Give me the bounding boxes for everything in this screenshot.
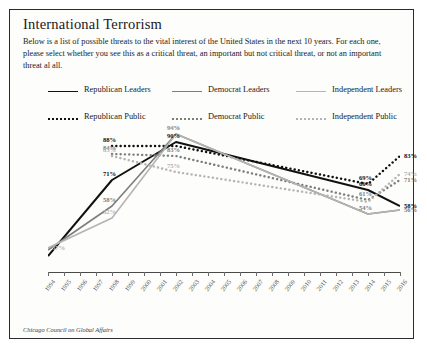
legend-label: Republican Public	[84, 112, 146, 121]
x-tick-label: 2011	[315, 278, 328, 292]
x-tick-label: 2001	[155, 278, 168, 292]
axis-tick	[336, 272, 337, 276]
axis-tick	[352, 272, 353, 276]
legend-item-democrat-leaders: Democrat Leaders	[172, 86, 292, 99]
x-tick-label: 2008	[267, 278, 280, 292]
legend-swatch	[172, 91, 202, 92]
x-tick-label: 2016	[395, 278, 408, 292]
description-text: Below is a list of possible threats to t…	[23, 36, 401, 72]
x-tick-label: 1998	[107, 278, 120, 292]
legend-swatch	[48, 118, 78, 120]
data-label: 74%	[404, 170, 417, 177]
axis-tick	[80, 272, 81, 276]
legend-item-republican-leaders: Republican Leaders	[48, 86, 168, 99]
series-lines	[48, 122, 400, 272]
chart-legend: Republican LeadersRepublican PublicDemoc…	[48, 86, 404, 114]
data-label: 75%	[167, 162, 180, 169]
data-label: 54%	[359, 204, 372, 211]
x-tick-label: 1995	[59, 278, 72, 292]
axis-tick	[160, 272, 161, 276]
axis-tick	[384, 272, 385, 276]
legend-label: Democrat Public	[208, 112, 265, 121]
axis-tick	[48, 272, 49, 276]
data-label: 66%	[359, 180, 372, 187]
page-title: International Terrorism	[23, 16, 162, 33]
series-republican-leaders	[48, 142, 400, 256]
data-label: 71%	[404, 176, 417, 183]
axis-tick	[192, 272, 193, 276]
axis-tick	[128, 272, 129, 276]
x-tick-label: 1994	[43, 278, 56, 292]
x-tick-label: 2007	[251, 278, 264, 292]
data-label: 83%	[167, 146, 180, 153]
axis-tick	[304, 272, 305, 276]
data-label: 83%	[404, 152, 417, 159]
legend-swatch	[48, 91, 78, 92]
source-credit: Chicago Council on Global Affairs	[23, 326, 113, 333]
legend-column: Democrat LeadersDemocrat Public	[172, 86, 292, 114]
data-label: 61%	[359, 190, 372, 197]
legend-label: Independent Leaders	[332, 85, 402, 94]
axis-tick	[320, 272, 321, 276]
data-label: 52%	[103, 208, 116, 215]
x-tick-label: 1997	[91, 278, 104, 292]
data-label: 94%	[167, 124, 180, 131]
axis-tick	[176, 272, 177, 276]
legend-label: Independent Public	[332, 112, 397, 121]
series-republican-public	[112, 146, 400, 184]
x-tick-label: 2004	[203, 278, 216, 292]
series-independent-leaders	[48, 134, 400, 248]
axis-tick	[256, 272, 257, 276]
axis-tick	[272, 272, 273, 276]
chart-frame: International Terrorism Below is a list …	[9, 9, 414, 339]
axis-tick	[112, 272, 113, 276]
axis-tick	[224, 272, 225, 276]
axis-tick	[64, 272, 65, 276]
legend-column: Independent LeadersIndependent Public	[296, 86, 416, 114]
x-tick-label: 2009	[283, 278, 296, 292]
x-tick-label: 2002	[171, 278, 184, 292]
data-label: 69%	[359, 174, 372, 181]
legend-item-independent-leaders: Independent Leaders	[296, 86, 416, 99]
x-tick-label: 2010	[299, 278, 312, 292]
data-label: 56%	[404, 206, 417, 213]
axis-tick	[400, 272, 401, 276]
legend-column: Republican LeadersRepublican Public	[48, 86, 168, 114]
x-tick-label: 2000	[139, 278, 152, 292]
axis-tick	[144, 272, 145, 276]
x-tick-label: 2006	[235, 278, 248, 292]
data-label: 88%	[103, 136, 116, 143]
data-label: 90%	[167, 132, 180, 139]
x-tick-label: 2013	[347, 278, 360, 292]
legend-label: Democrat Leaders	[208, 85, 270, 94]
data-label: 37%	[52, 244, 65, 251]
axis-tick	[288, 272, 289, 276]
x-tick-label: 2005	[219, 278, 232, 292]
legend-label: Republican Leaders	[84, 85, 151, 94]
x-tick-label: 2012	[331, 278, 344, 292]
x-tick-label: 2003	[187, 278, 200, 292]
axis-tick	[208, 272, 209, 276]
axis-tick	[96, 272, 97, 276]
x-tick-label: 2015	[379, 278, 392, 292]
legend-swatch	[172, 118, 202, 120]
plot-area: 71%90%66%58%88%69%83%58%94%54%56%84%83%6…	[48, 122, 400, 272]
data-label: 58%	[103, 196, 116, 203]
legend-swatch	[296, 91, 326, 92]
x-tick-label: 1996	[75, 278, 88, 292]
data-label: 71%	[103, 170, 116, 177]
legend-swatch	[296, 118, 326, 120]
axis-tick	[240, 272, 241, 276]
axis-tick	[368, 272, 369, 276]
data-label: 83%	[103, 146, 116, 153]
x-tick-label: 1999	[123, 278, 136, 292]
x-tick-label: 2014	[363, 278, 376, 292]
